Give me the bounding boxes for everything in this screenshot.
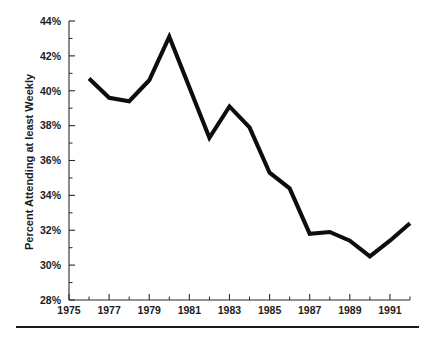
x-tick-label: 1981 xyxy=(178,304,202,316)
y-axis-tick-labels: 28%30%32%34%36%38%40%42%44% xyxy=(40,15,62,306)
y-tick-label: 32% xyxy=(40,224,62,236)
chart-figure: 28%30%32%34%36%38%40%42%44% 197519771979… xyxy=(0,0,425,338)
x-tick-label: 1977 xyxy=(97,304,121,316)
y-tick-label: 34% xyxy=(40,189,62,201)
x-tick-label: 1985 xyxy=(258,304,282,316)
x-tick-label: 1979 xyxy=(138,304,162,316)
y-tick-label: 38% xyxy=(40,119,62,131)
y-tick-label: 36% xyxy=(40,154,62,166)
x-tick-label: 1987 xyxy=(298,304,322,316)
y-axis-title: Percent Attending at least Weekly xyxy=(23,73,35,250)
y-tick-label: 42% xyxy=(40,50,62,62)
x-tick-label: 1983 xyxy=(218,304,242,316)
line-chart: 28%30%32%34%36%38%40%42%44% 197519771979… xyxy=(0,0,425,338)
x-axis-tick-labels: 197519771979198119831985198719891991 xyxy=(57,304,401,316)
y-tick-label: 30% xyxy=(40,259,62,271)
x-tick-label: 1975 xyxy=(57,304,81,316)
chart-background xyxy=(0,0,425,338)
y-tick-label: 44% xyxy=(40,15,62,27)
y-tick-label: 40% xyxy=(40,85,62,97)
x-tick-label: 1991 xyxy=(378,304,402,316)
x-tick-label: 1989 xyxy=(338,304,362,316)
